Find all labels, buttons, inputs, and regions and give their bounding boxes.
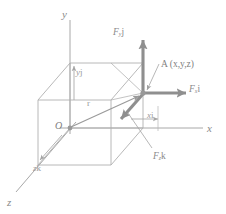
dimension-z-label-unit: k — [37, 163, 42, 173]
force-z-label: Fzk — [153, 152, 166, 162]
box-edge-1 — [38, 128, 70, 165]
force-x-label-unit: i — [197, 84, 200, 94]
force-z-label-unit: k — [161, 151, 166, 161]
dimension-z-arrow — [40, 135, 62, 160]
point-a-leader-line — [147, 64, 159, 90]
x-axis-label: x — [207, 123, 212, 134]
y-axis-label: y — [62, 9, 67, 20]
z-axis-label: z — [7, 197, 11, 208]
force-components-figure: y x z O A (x,y,z) Fyj Fxi Fzk r yj xi zk — [0, 0, 226, 214]
axis-lines — [16, 20, 203, 192]
point-a-marker — [140, 90, 145, 95]
point-a-leader — [147, 64, 159, 90]
projection-line-top — [111, 63, 143, 93]
dimension-z-label: zk — [33, 164, 41, 173]
force-y-label: Fyj — [113, 28, 124, 38]
force-z-arrow — [121, 94, 143, 119]
dimension-z — [40, 135, 62, 160]
box-back-face — [38, 100, 111, 165]
point-a-label: A (x,y,z) — [161, 60, 194, 70]
origin-label: O — [55, 121, 62, 131]
dimension-y-label: yj — [76, 68, 83, 77]
dimension-y-label-unit: j — [80, 67, 83, 77]
origin-marker — [68, 126, 73, 131]
dimension-x-label: xi — [147, 111, 154, 120]
position-vector-label: r — [87, 99, 90, 108]
z-axis-line — [16, 122, 76, 192]
box-edge-2 — [111, 128, 143, 165]
box-edge-4 — [38, 63, 70, 100]
force-x-label: Fxi — [189, 85, 200, 95]
dimension-x-label-unit: i — [151, 110, 154, 120]
force-z-vector — [121, 94, 143, 119]
force-y-label-unit: j — [121, 27, 124, 37]
